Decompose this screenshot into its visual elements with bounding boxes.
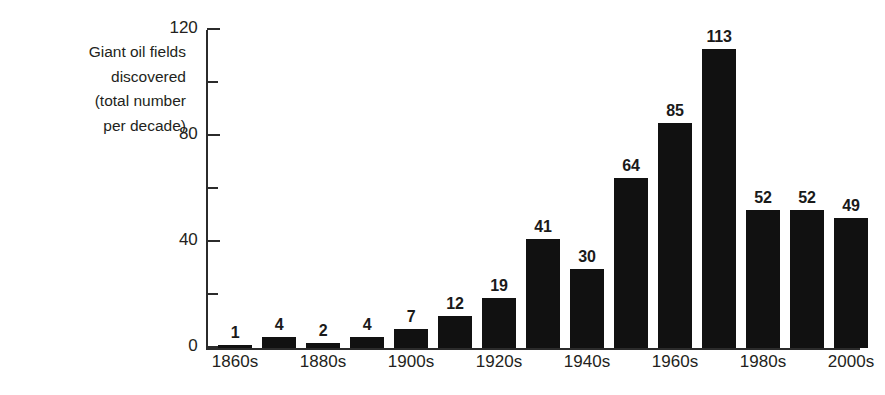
bar-1980s[interactable]: 52	[746, 210, 780, 348]
bar-value-label-1910s: 12	[446, 295, 463, 313]
y-tick-label-40: 40	[179, 230, 198, 250]
bar-value-label-1980s: 52	[754, 189, 771, 207]
x-tick-label-1860s: 1860s	[212, 352, 258, 372]
bar-value-label-1860s: 1	[231, 324, 240, 342]
bar-1920s[interactable]: 19	[482, 298, 516, 348]
bar-1990s[interactable]: 52	[790, 210, 824, 348]
bar-1890s[interactable]: 4	[350, 337, 384, 348]
x-tick-label-1940s: 1940s	[564, 352, 610, 372]
bar-value-label-1990s: 52	[798, 189, 815, 207]
x-tick-label-1980s: 1980s	[740, 352, 786, 372]
bar-group: 4	[350, 30, 384, 348]
bar-1960s[interactable]: 85	[658, 123, 692, 348]
x-axis-line	[206, 348, 860, 350]
bar-group: 492000s	[834, 30, 868, 348]
bar-value-label-1930s: 41	[534, 218, 551, 236]
x-tick-label-1920s: 1920s	[476, 352, 522, 372]
bar-group: 12	[438, 30, 472, 348]
bar-group: 113	[702, 30, 736, 348]
bar-1940s[interactable]: 30	[570, 269, 604, 349]
bar-group: 521980s	[746, 30, 780, 348]
bar-value-label-1960s: 85	[666, 102, 683, 120]
bar-1950s[interactable]: 64	[614, 178, 648, 348]
bar-1880s[interactable]: 2	[306, 343, 340, 348]
bar-value-label-1880s: 2	[319, 322, 328, 340]
bar-group: 301940s	[570, 30, 604, 348]
bar-value-label-2000s: 49	[842, 197, 859, 215]
y-tick-60	[207, 187, 218, 189]
bar-group: 41	[526, 30, 560, 348]
y-tick-label-120: 120	[169, 18, 197, 38]
bar-group: 64	[614, 30, 648, 348]
x-tick-label-2000s: 2000s	[828, 352, 874, 372]
bar-group: 52	[790, 30, 824, 348]
bar-value-label-1900s: 7	[407, 308, 416, 326]
y-axis-title-line-2: discovered	[8, 65, 186, 90]
bar-group: 851960s	[658, 30, 692, 348]
y-axis-title-line-4: per decade)	[8, 114, 186, 139]
bar-1910s[interactable]: 12	[438, 316, 472, 348]
plot-area: 04080120 11860s421880s471900s12191920s41…	[206, 30, 860, 348]
bar-group: 4	[262, 30, 296, 348]
bar-value-label-1870s: 4	[275, 316, 284, 334]
y-axis-title-line-3: (total number	[8, 89, 186, 114]
x-tick-label-1900s: 1900s	[388, 352, 434, 372]
y-tick-label-80: 80	[179, 124, 198, 144]
x-tick-label-1880s: 1880s	[300, 352, 346, 372]
y-axis-title-line-1: Giant oil fields	[8, 40, 186, 65]
bar-2000s[interactable]: 49	[834, 218, 868, 348]
bar-1900s[interactable]: 7	[394, 329, 428, 348]
bar-value-label-1890s: 4	[363, 316, 372, 334]
y-tick-label-0: 0	[188, 336, 197, 356]
bar-1930s[interactable]: 41	[526, 239, 560, 348]
bar-chart: Giant oil fields discovered (total numbe…	[0, 0, 885, 395]
bar-1860s[interactable]: 1	[218, 345, 252, 349]
bar-value-label-1940s: 30	[578, 248, 595, 266]
bar-group: 21880s	[306, 30, 340, 348]
bar-value-label-1920s: 19	[490, 277, 507, 295]
y-tick-20	[207, 293, 218, 295]
bar-1970s[interactable]: 113	[702, 49, 736, 348]
y-axis-line	[206, 30, 208, 348]
bar-group: 11860s	[218, 30, 252, 348]
bar-1870s[interactable]: 4	[262, 337, 296, 348]
bar-value-label-1950s: 64	[622, 157, 639, 175]
bar-group: 71900s	[394, 30, 428, 348]
y-axis-title: Giant oil fields discovered (total numbe…	[8, 40, 186, 138]
x-tick-label-1960s: 1960s	[652, 352, 698, 372]
bar-group: 191920s	[482, 30, 516, 348]
bar-value-label-1970s: 113	[706, 28, 731, 46]
y-tick-100	[207, 81, 218, 83]
